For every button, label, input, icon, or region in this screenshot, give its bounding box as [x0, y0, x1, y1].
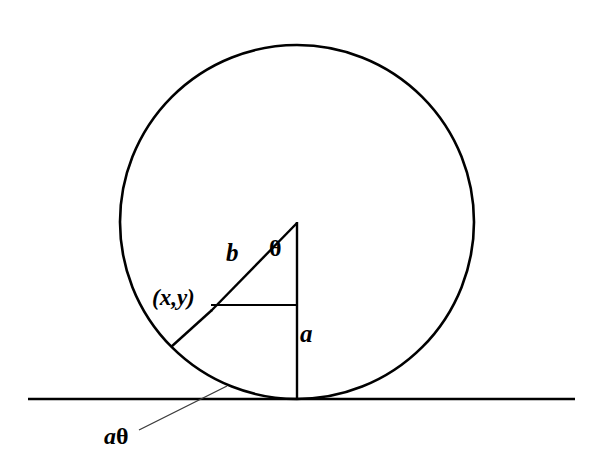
- hypotenuse-line: [211, 223, 297, 311]
- arc-label-leader-line: [139, 386, 227, 430]
- arc-length-a-part: a: [104, 423, 116, 449]
- hypotenuse-label: b: [226, 240, 239, 265]
- chord-to-circle-line: [171, 310, 212, 347]
- point-xy-label: (x,y): [152, 286, 195, 309]
- cycloid-diagram: b θ (x,y) a aθ: [0, 0, 596, 465]
- diagram-canvas: [0, 0, 596, 465]
- arc-length-label: aθ: [104, 424, 129, 448]
- angle-theta-label: θ: [269, 236, 282, 260]
- radius-a-label: a: [300, 321, 313, 346]
- arc-length-theta-part: θ: [116, 423, 129, 449]
